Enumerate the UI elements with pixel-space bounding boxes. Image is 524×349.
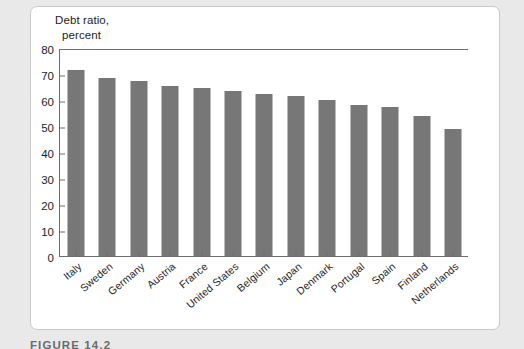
y-axis-tick-label: 50 (41, 122, 60, 134)
bar-group: France (186, 50, 217, 256)
x-axis-tick-mark (107, 251, 108, 256)
bar-group: Japan (280, 50, 311, 256)
bar (225, 91, 242, 256)
bar-group: Italy (60, 50, 91, 256)
y-axis-tick-label: 60 (41, 96, 60, 108)
y-axis-tick-label: 80 (41, 44, 60, 56)
bar (162, 86, 179, 256)
x-axis-tick-label: Austria (145, 260, 178, 291)
bar (256, 94, 273, 257)
bar (99, 78, 116, 256)
y-axis-tick-label: 30 (41, 174, 60, 186)
x-axis-tick-label: Belgium (235, 260, 272, 294)
figure-panel: Debt ratio,percent 01020304050607080 Ita… (30, 6, 500, 330)
x-axis-tick-label: Italy (61, 260, 84, 282)
x-axis-tick-label: Spain (369, 260, 398, 287)
x-axis-tick-mark (264, 251, 265, 256)
bar (413, 116, 430, 256)
plot-area: 01020304050607080 ItalySwedenGermanyAust… (59, 49, 468, 257)
x-axis-tick-mark (138, 251, 139, 256)
bar-series: ItalySwedenGermanyAustriaFranceUnited St… (60, 50, 468, 256)
bar (130, 81, 147, 257)
y-axis-tick-label: 0 (48, 252, 60, 264)
x-axis-tick-mark (358, 251, 359, 256)
x-axis-tick-mark (170, 251, 171, 256)
bar (350, 105, 367, 256)
x-axis-tick-label: Portugal (328, 260, 366, 295)
bar-group: Denmark (312, 50, 343, 256)
y-axis-tick-label: 10 (41, 226, 60, 238)
bar-group: Finland (406, 50, 437, 256)
bar (287, 96, 304, 256)
bar (67, 70, 84, 256)
y-axis-title: Debt ratio,percent (55, 13, 109, 42)
x-axis-tick-mark (327, 251, 328, 256)
x-axis-tick-mark (453, 251, 454, 256)
bar-group: United States (217, 50, 248, 256)
bar-group: Portugal (343, 50, 374, 256)
x-axis-tick-mark (295, 251, 296, 256)
x-axis-tick-mark (233, 251, 234, 256)
bar-group: Austria (154, 50, 185, 256)
bar (319, 100, 336, 256)
y-axis-tick-label: 20 (41, 200, 60, 212)
y-axis-tick-label: 70 (41, 70, 60, 82)
bar-group: Germany (123, 50, 154, 256)
bar (193, 88, 210, 256)
x-axis-tick-mark (201, 251, 202, 256)
figure-caption: FIGURE 14.2 (30, 339, 111, 349)
y-axis-tick-label: 40 (41, 148, 60, 160)
bar-group: Netherlands (438, 50, 469, 256)
y-axis-title-line2: percent (55, 28, 109, 43)
bar-group: Belgium (249, 50, 280, 256)
bar-group: Spain (375, 50, 406, 256)
bar (445, 129, 462, 256)
bar (382, 107, 399, 257)
x-axis-tick-mark (75, 251, 76, 256)
y-axis-title-line1: Debt ratio, (55, 14, 109, 26)
bar-group: Sweden (91, 50, 122, 256)
page-root: Debt ratio,percent 01020304050607080 Ita… (0, 0, 524, 349)
x-axis-tick-mark (390, 251, 391, 256)
bar-chart: Debt ratio,percent 01020304050607080 Ita… (31, 7, 499, 329)
x-axis-tick-mark (421, 251, 422, 256)
